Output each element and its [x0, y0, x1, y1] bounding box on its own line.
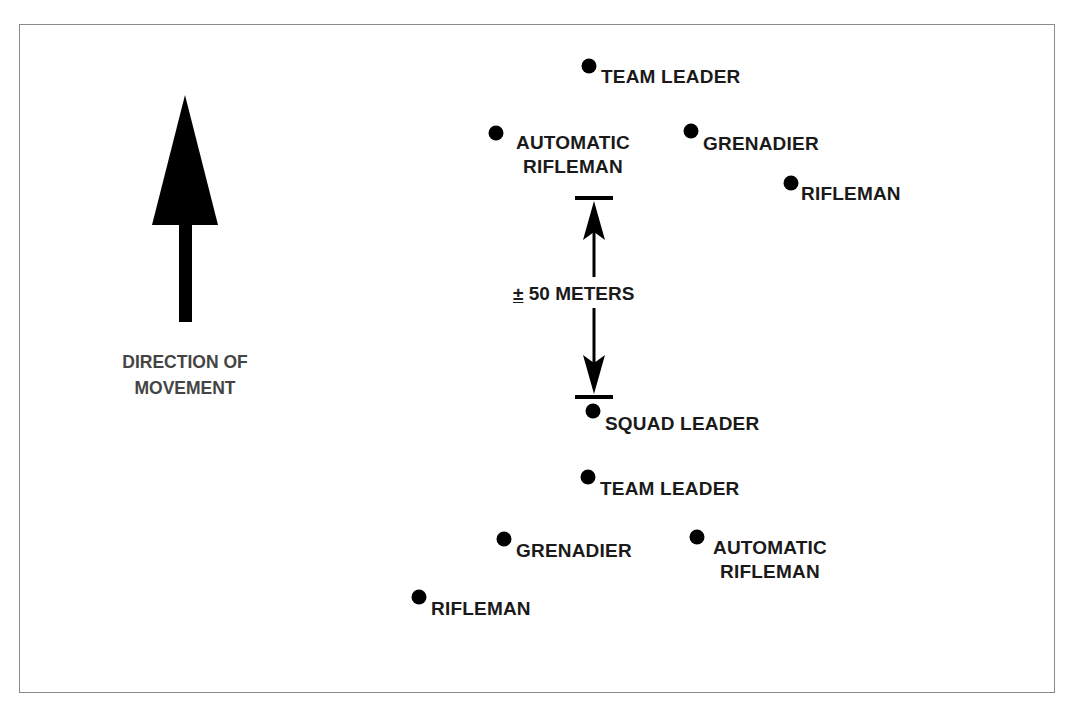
label-rear-grenadier: GRENADIER	[516, 539, 632, 563]
plus-minus-symbol: ±	[513, 283, 523, 304]
dot-front-rifleman	[784, 176, 799, 191]
label-line1: AUTOMATIC	[503, 131, 643, 155]
direction-label-line2: MOVEMENT	[95, 375, 275, 401]
dot-front-team-leader	[582, 59, 597, 74]
distance-top-tick	[575, 196, 613, 200]
label-rear-team-leader: TEAM LEADER	[600, 477, 739, 501]
label-front-team-leader: TEAM LEADER	[601, 65, 740, 89]
dot-front-automatic-rifleman	[489, 126, 504, 141]
label-front-automatic-rifleman: AUTOMATIC RIFLEMAN	[503, 131, 643, 179]
label-rear-automatic-rifleman: AUTOMATIC RIFLEMAN	[700, 536, 840, 584]
label-front-grenadier: GRENADIER	[703, 132, 819, 156]
dot-rear-team-leader	[581, 470, 596, 485]
dot-rear-rifleman	[412, 590, 427, 605]
dot-squad-leader	[586, 404, 601, 419]
label-line1: AUTOMATIC	[700, 536, 840, 560]
distance-value: 50 METERS	[529, 283, 635, 304]
label-front-rifleman: RIFLEMAN	[801, 182, 901, 206]
direction-of-movement-label: DIRECTION OF MOVEMENT	[95, 349, 275, 401]
label-squad-leader: SQUAD LEADER	[605, 412, 759, 436]
dot-rear-grenadier	[497, 532, 512, 547]
direction-label-line1: DIRECTION OF	[95, 349, 275, 375]
label-line2: RIFLEMAN	[700, 560, 840, 584]
distance-label: ± 50 METERS	[511, 282, 636, 306]
label-rear-rifleman: RIFLEMAN	[431, 597, 531, 621]
direction-arrow-icon	[152, 95, 218, 322]
dot-front-grenadier	[684, 124, 699, 139]
label-line2: RIFLEMAN	[503, 155, 643, 179]
distance-bottom-tick	[575, 395, 613, 399]
